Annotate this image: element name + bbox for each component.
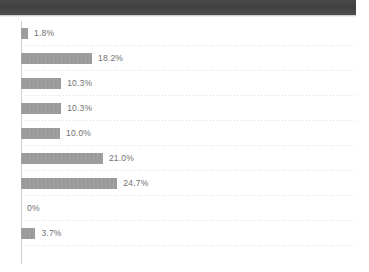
bar-value-label: 24.7% (123, 178, 148, 189)
bar-row: 10.3% (0, 71, 369, 96)
bar-value-label: 1.8% (34, 28, 54, 39)
gridline (21, 95, 355, 96)
gridline (21, 70, 355, 71)
bar (21, 178, 117, 189)
gridline (21, 145, 355, 146)
gridline (21, 195, 355, 196)
bar (21, 103, 61, 114)
bar-row: 24.7% (0, 171, 369, 196)
gridline (21, 245, 355, 246)
bar-value-label: 18.2% (98, 53, 123, 64)
bar-row: 1.8% (0, 21, 369, 46)
bar-value-label: 0% (27, 203, 40, 214)
gridline (21, 45, 355, 46)
gridline (21, 120, 355, 121)
bar-row: 21.0% (0, 146, 369, 171)
bar-value-label: 21.0% (109, 153, 134, 164)
bar-value-label: 10.0% (66, 128, 91, 139)
horizontal-bar-chart: 1.8%18.2%10.3%10.3%10.0%21.0%24.7%0%3.7% (0, 17, 369, 272)
gridline (21, 220, 355, 221)
bar-value-label: 10.3% (67, 78, 92, 89)
window-chrome-band (0, 0, 356, 15)
bar-row: 0% (0, 196, 369, 221)
bar-row: 10.0% (0, 121, 369, 146)
gridline (21, 170, 355, 171)
bar (21, 53, 92, 64)
bar-row: 10.3% (0, 96, 369, 121)
bar-row: 18.2% (0, 46, 369, 71)
bar-row: 3.7% (0, 221, 369, 246)
bar (21, 128, 60, 139)
bar (21, 228, 35, 239)
bar (21, 28, 28, 39)
bar-value-label: 10.3% (67, 103, 92, 114)
bar-value-label: 3.7% (41, 228, 61, 239)
bar (21, 153, 103, 164)
bar (21, 78, 61, 89)
